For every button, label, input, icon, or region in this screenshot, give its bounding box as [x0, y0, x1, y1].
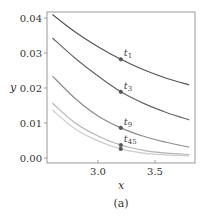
marker-annotation-t3: t3	[124, 80, 133, 93]
chart: 0.000.010.020.030.04 3.03.5 t1t3t9t45 y …	[0, 0, 205, 220]
y-tick-label: 0.00	[20, 153, 42, 164]
plot-area-border	[47, 12, 195, 163]
plot-frame	[47, 12, 195, 163]
x-axis-label: x	[118, 179, 125, 192]
y-axis-label: y	[9, 81, 17, 94]
x-tick-label: 3.0	[90, 166, 106, 177]
marker-annotation-t45: t45	[124, 133, 137, 146]
data-point-marker	[119, 143, 123, 147]
series-lines	[52, 15, 189, 156]
data-point-marker	[119, 147, 123, 151]
data-point-marker	[119, 90, 123, 94]
marker-annotation-t1: t1	[124, 47, 133, 60]
x-tick-label: 3.5	[147, 166, 163, 177]
y-tick-label: 0.04	[20, 13, 42, 24]
y-tick-label: 0.03	[20, 48, 42, 59]
y-tick-label: 0.01	[20, 118, 42, 129]
series-line-t1	[52, 15, 189, 85]
marker-annotation-t9: t9	[124, 116, 133, 129]
figure-caption: (a)	[113, 197, 128, 210]
data-point-marker	[119, 126, 123, 130]
data-point-marker	[119, 58, 123, 62]
y-axis-ticks: 0.000.010.020.030.04	[20, 13, 47, 164]
y-tick-label: 0.02	[20, 83, 42, 94]
series-line-t9	[52, 76, 189, 147]
